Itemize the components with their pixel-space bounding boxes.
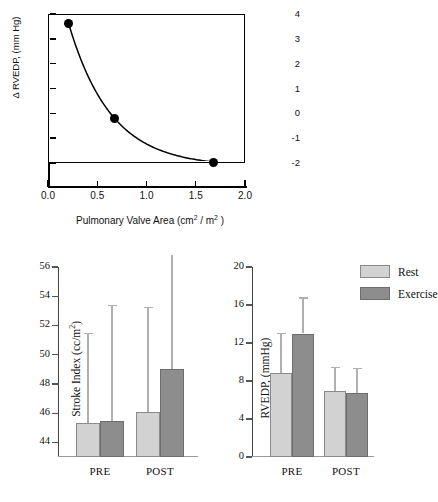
- top-x-tick: [195, 181, 196, 187]
- error-bar-cap: [144, 307, 153, 308]
- right-y-tick: [246, 304, 252, 305]
- top-x-tick: [244, 180, 245, 187]
- right-y-tick: [246, 380, 252, 381]
- bar-post-rest: [136, 412, 160, 457]
- left-y-tick-label: 48: [40, 378, 51, 389]
- right-y-tick-label: 12: [234, 337, 245, 348]
- right-y-tick: [246, 342, 252, 343]
- top-y-tick: [50, 162, 56, 163]
- bar-pre-exercise: [100, 421, 124, 457]
- error-bar-pre-exercise: [111, 305, 112, 421]
- left-y-tick: [52, 296, 58, 297]
- top-y-tick-label: 2: [256, 59, 300, 69]
- top-y-tick: [50, 88, 56, 89]
- top-y-tick-label: -1: [256, 133, 300, 143]
- bar-post-rest: [324, 391, 346, 457]
- top-y-tick-label: -2: [256, 158, 300, 168]
- rvedp-bar-chart: RVEDP, (mmHg) Rest Exercise 048121620PRE…: [202, 255, 404, 502]
- left-y-tick: [52, 325, 58, 326]
- error-bar-cap: [84, 333, 93, 334]
- right-y-tick-label: 4: [239, 413, 244, 424]
- left-y-tick: [52, 442, 58, 443]
- legend-label-rest: Rest: [398, 266, 418, 278]
- stroke-index-bar-chart: Stroke Index (cc/m2) 44464850525456PREPO…: [0, 255, 202, 502]
- error-bar-cap: [108, 305, 117, 306]
- top-y-tick: [50, 13, 56, 14]
- data-point-marker: [209, 158, 218, 167]
- bar-pre-rest: [270, 373, 292, 457]
- right-y-tick: [246, 266, 252, 267]
- top-y-tick-label: 1: [256, 84, 300, 94]
- error-bar-cap: [299, 297, 308, 298]
- top-y-tick: [50, 38, 56, 39]
- top-y-tick-label: 0: [256, 108, 300, 118]
- right-y-tick: [246, 418, 252, 419]
- right-y-tick-label: 0: [239, 451, 244, 462]
- top-y-tick: [50, 137, 56, 138]
- left-y-tick: [52, 354, 58, 355]
- right-y-axis: [252, 267, 253, 457]
- fitted-curve: [49, 15, 243, 161]
- error-bar-post-exercise: [171, 255, 172, 369]
- legend-item-rest: Rest: [360, 265, 438, 278]
- error-bar-cap: [353, 368, 362, 369]
- left-y-tick-label: 56: [40, 261, 51, 272]
- left-y-tick-label: 44: [40, 436, 51, 447]
- group-label-post: POST: [311, 465, 381, 477]
- top-x-tick: [47, 180, 48, 187]
- top-x-tick-label: 0.0: [28, 190, 68, 201]
- left-y-tick-label: 52: [40, 319, 51, 330]
- error-bar-pre-rest: [87, 333, 88, 423]
- left-y-tick: [52, 266, 58, 267]
- left-y-tick-label: 54: [40, 290, 51, 301]
- error-bar-cap: [331, 367, 340, 368]
- bar-post-exercise: [346, 393, 368, 457]
- error-bar-pre-exercise: [302, 297, 303, 333]
- left-y-tick: [52, 383, 58, 384]
- legend-swatch-rest: [360, 265, 390, 278]
- error-bar-post-exercise: [356, 368, 357, 394]
- top-y-tick: [50, 63, 56, 64]
- top-y-axis-label: Δ RVEDP, (mm Hg): [10, 0, 21, 143]
- right-plot-area: RVEDP, (mmHg) Rest Exercise 048121620PRE…: [252, 267, 362, 457]
- error-bar-cap: [277, 333, 286, 334]
- left-y-tick-label: 46: [40, 407, 51, 418]
- group-label-post: POST: [125, 465, 195, 477]
- left-y-tick: [52, 413, 58, 414]
- top-x-tick: [97, 181, 98, 187]
- top-x-tick-label: 2.0: [225, 190, 265, 201]
- right-y-tick-label: 20: [234, 261, 245, 272]
- left-y-axis: [58, 267, 59, 457]
- top-x-axis-label: Pulmonary Valve Area (cm2 / m2 ): [10, 214, 290, 226]
- bar-pre-exercise: [292, 334, 314, 458]
- legend-label-exercise: Exercise: [398, 288, 438, 300]
- left-y-tick-label: 50: [40, 349, 51, 360]
- bar-post-exercise: [160, 369, 184, 457]
- legend-item-exercise: Exercise: [360, 287, 438, 300]
- top-x-tick-label: 1.0: [127, 190, 167, 201]
- top-x-tick-label: 1.5: [176, 190, 216, 201]
- bar-pre-rest: [76, 423, 100, 457]
- top-y-tick-label: 3: [256, 34, 300, 44]
- legend: Rest Exercise: [360, 265, 438, 309]
- top-y-tick-label: 4: [256, 9, 300, 19]
- x-axis-line: [48, 186, 247, 188]
- top-x-tick: [146, 181, 147, 187]
- right-y-tick-label: 8: [239, 375, 244, 386]
- error-bar-post-rest: [334, 367, 335, 392]
- legend-swatch-exercise: [360, 287, 390, 300]
- delta-rvedp-vs-valve-area-chart: 43210-1-2 0.00.51.01.52.0 Δ RVEDP, (mm H…: [0, 0, 300, 236]
- right-y-tick: [246, 456, 252, 457]
- left-plot-area: Stroke Index (cc/m2) 44464850525456PREPO…: [58, 267, 186, 457]
- top-x-tick-label: 0.5: [77, 190, 117, 201]
- error-bar-post-rest: [147, 307, 148, 412]
- top-y-tick: [50, 113, 56, 114]
- error-bar-pre-rest: [280, 333, 281, 374]
- right-y-tick-label: 16: [234, 299, 245, 310]
- top-plot-frame: [48, 14, 245, 163]
